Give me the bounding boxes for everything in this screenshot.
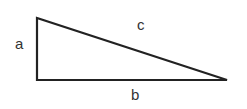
triangle-diagram: a c b: [0, 0, 247, 109]
side-b-label: b: [131, 86, 139, 103]
side-a-label: a: [15, 35, 24, 52]
right-triangle: [37, 18, 227, 80]
side-c-label: c: [137, 16, 145, 33]
